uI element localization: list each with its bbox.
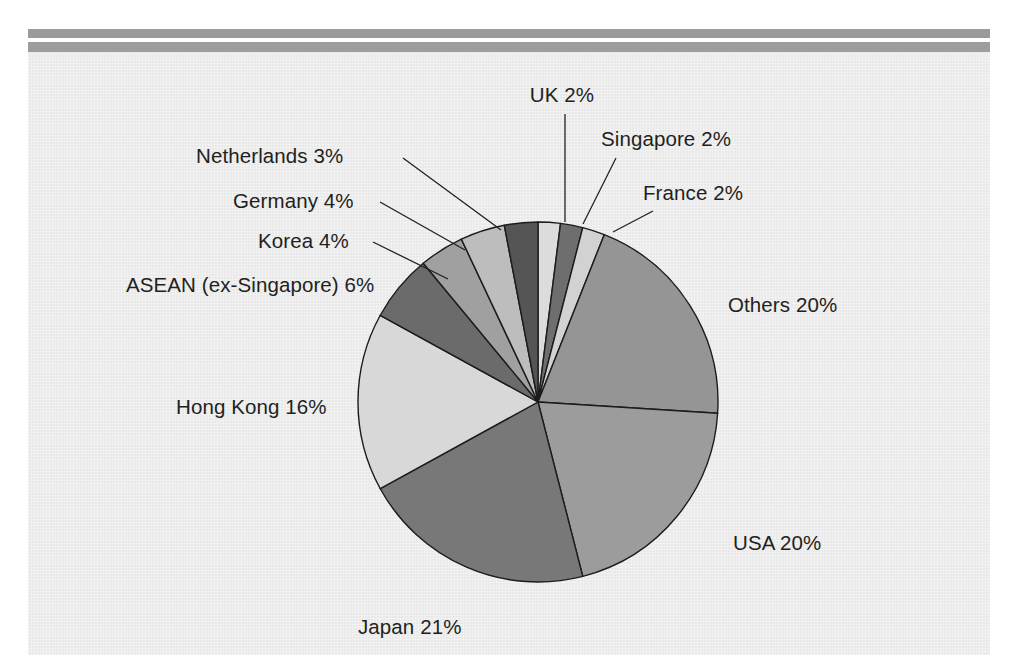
leader-line-netherlands-3 bbox=[403, 158, 501, 230]
leader-line-singapore-2 bbox=[583, 158, 616, 224]
pie-label-germany-4: Germany 4% bbox=[233, 189, 354, 212]
leader-line-germany-4 bbox=[380, 202, 465, 250]
pie-chart: UK 2%Singapore 2%France 2%Others 20%USA … bbox=[28, 52, 990, 655]
pie-label-korea-4: Korea 4% bbox=[258, 229, 349, 252]
header-rule-bottom bbox=[28, 42, 990, 52]
page-root: UK 2%Singapore 2%France 2%Others 20%USA … bbox=[0, 0, 1012, 671]
pie-label-france-2: France 2% bbox=[643, 181, 743, 204]
pie-label-asean-ex-singapore-6: ASEAN (ex-Singapore) 6% bbox=[126, 273, 374, 296]
pie-label-netherlands-3: Netherlands 3% bbox=[196, 144, 343, 167]
leader-line-france-2 bbox=[613, 211, 653, 232]
pie-label-singapore-2: Singapore 2% bbox=[601, 127, 731, 150]
pie-slices bbox=[358, 222, 718, 582]
pie-label-uk-2: UK 2% bbox=[530, 83, 594, 106]
chart-panel: UK 2%Singapore 2%France 2%Others 20%USA … bbox=[28, 52, 990, 655]
pie-label-japan-21: Japan 21% bbox=[358, 615, 461, 638]
pie-label-usa-20: USA 20% bbox=[733, 531, 821, 554]
header-rule-top bbox=[28, 29, 990, 38]
pie-label-hong-kong-16: Hong Kong 16% bbox=[176, 395, 327, 418]
pie-label-others-20: Others 20% bbox=[728, 293, 837, 316]
